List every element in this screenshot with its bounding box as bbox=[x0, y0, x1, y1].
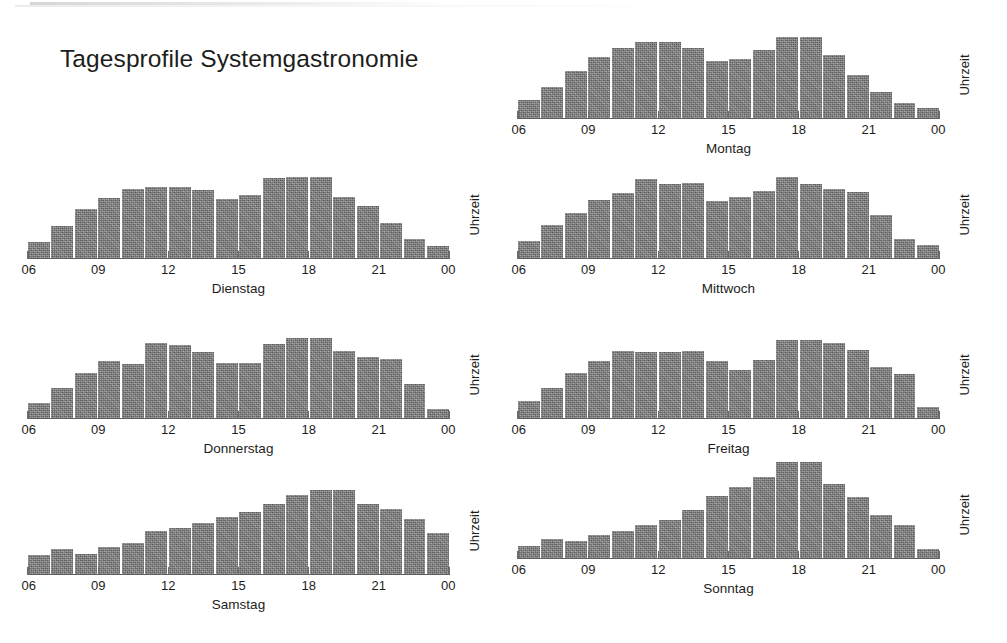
chart-caption-donnerstag: Donnerstag bbox=[28, 441, 449, 456]
x-axis-ticks-dienstag bbox=[28, 251, 449, 259]
axis-tick bbox=[588, 411, 589, 419]
axis-tick bbox=[938, 551, 939, 559]
bar bbox=[776, 340, 798, 418]
axis-tick-label: 18 bbox=[791, 422, 805, 437]
axis-tick-label: 06 bbox=[511, 262, 525, 277]
axis-tick bbox=[938, 411, 939, 419]
bar bbox=[753, 360, 775, 418]
y-axis-caption-samstag: Uhrzeit bbox=[465, 488, 483, 574]
axis-tick bbox=[238, 411, 239, 419]
y-axis-caption-donnerstag: Uhrzeit bbox=[465, 332, 483, 418]
axis-tick bbox=[308, 411, 309, 419]
bar bbox=[776, 462, 798, 558]
axis-tick bbox=[588, 551, 589, 559]
axis-tick bbox=[27, 251, 28, 259]
bar bbox=[612, 193, 634, 258]
axis-tick-label: 21 bbox=[862, 422, 876, 437]
chart-caption-montag: Montag bbox=[518, 141, 939, 156]
chart-panel-sonntag: 06091215182100UhrzeitSonntag bbox=[518, 462, 973, 600]
axis-tick-label: 06 bbox=[511, 122, 525, 137]
chart-caption-dienstag: Dienstag bbox=[28, 281, 449, 296]
bar bbox=[823, 189, 845, 258]
x-axis-tick-labels-freitag: 06091215182100 bbox=[518, 422, 939, 438]
bar bbox=[333, 197, 355, 258]
bar bbox=[800, 184, 822, 258]
bar bbox=[635, 42, 657, 118]
bar bbox=[333, 490, 355, 574]
bar bbox=[216, 363, 238, 418]
axis-tick-label: 12 bbox=[651, 422, 665, 437]
axis-tick-label: 15 bbox=[721, 262, 735, 277]
axis-tick-label: 12 bbox=[651, 122, 665, 137]
bar bbox=[729, 487, 751, 558]
axis-tick bbox=[98, 567, 99, 575]
plot-area-montag bbox=[518, 22, 939, 118]
axis-tick-label: 21 bbox=[372, 262, 386, 277]
axis-tick bbox=[378, 567, 379, 575]
bar bbox=[706, 496, 728, 558]
axis-tick-label: 00 bbox=[931, 262, 945, 277]
axis-tick-label: 09 bbox=[581, 262, 595, 277]
bar bbox=[776, 177, 798, 258]
plot-area-sonntag bbox=[518, 462, 939, 558]
axis-tick bbox=[728, 111, 729, 119]
axis-tick bbox=[658, 411, 659, 419]
axis-tick bbox=[728, 551, 729, 559]
bar bbox=[729, 59, 751, 118]
axis-tick bbox=[378, 251, 379, 259]
axis-tick bbox=[168, 567, 169, 575]
axis-tick-label: 00 bbox=[931, 422, 945, 437]
axis-tick bbox=[798, 551, 799, 559]
x-axis-ticks-donnerstag bbox=[28, 411, 449, 419]
axis-tick-label: 00 bbox=[931, 122, 945, 137]
bar bbox=[286, 495, 308, 574]
bar bbox=[263, 178, 285, 258]
axis-tick bbox=[798, 251, 799, 259]
axis-tick-label: 12 bbox=[651, 562, 665, 577]
bar bbox=[588, 200, 610, 258]
chart-caption-freitag: Freitag bbox=[518, 441, 939, 456]
x-axis-ticks-sonntag bbox=[518, 551, 939, 559]
axis-tick-label: 06 bbox=[21, 422, 35, 437]
bar bbox=[753, 191, 775, 258]
axis-tick bbox=[448, 251, 449, 259]
axis-tick-label: 21 bbox=[862, 122, 876, 137]
bar bbox=[635, 179, 657, 258]
axis-tick-label: 09 bbox=[581, 562, 595, 577]
axis-tick-label: 00 bbox=[441, 578, 455, 593]
axis-tick-label: 18 bbox=[791, 122, 805, 137]
axis-tick bbox=[868, 251, 869, 259]
bar bbox=[776, 37, 798, 118]
x-axis-tick-labels-samstag: 06091215182100 bbox=[28, 578, 449, 594]
bar bbox=[659, 352, 681, 418]
bar bbox=[169, 187, 191, 258]
axis-tick bbox=[798, 411, 799, 419]
x-axis-tick-labels-dienstag: 06091215182100 bbox=[28, 262, 449, 278]
bar bbox=[122, 189, 144, 258]
bar bbox=[286, 338, 308, 418]
bar bbox=[729, 197, 751, 258]
x-axis-ticks-mittwoch bbox=[518, 251, 939, 259]
chart-caption-mittwoch: Mittwoch bbox=[518, 281, 939, 296]
axis-tick bbox=[517, 251, 518, 259]
axis-tick-label: 15 bbox=[721, 562, 735, 577]
bar bbox=[192, 352, 214, 418]
axis-tick-label: 12 bbox=[651, 262, 665, 277]
axis-tick-label: 21 bbox=[372, 578, 386, 593]
axis-tick bbox=[938, 251, 939, 259]
axis-tick-label: 06 bbox=[21, 578, 35, 593]
chart-panel-donnerstag: 06091215182100UhrzeitDonnerstag bbox=[28, 322, 483, 460]
axis-tick-label: 09 bbox=[91, 578, 105, 593]
y-axis-caption-mittwoch: Uhrzeit bbox=[955, 172, 973, 258]
bar bbox=[847, 497, 869, 558]
bar bbox=[310, 338, 332, 418]
bar bbox=[404, 519, 426, 574]
axis-tick-label: 15 bbox=[231, 578, 245, 593]
axis-tick-label: 09 bbox=[581, 122, 595, 137]
bar bbox=[310, 177, 332, 258]
bar bbox=[847, 350, 869, 418]
axis-tick bbox=[588, 251, 589, 259]
bar bbox=[588, 361, 610, 418]
axis-tick bbox=[27, 567, 28, 575]
bar bbox=[706, 61, 728, 118]
